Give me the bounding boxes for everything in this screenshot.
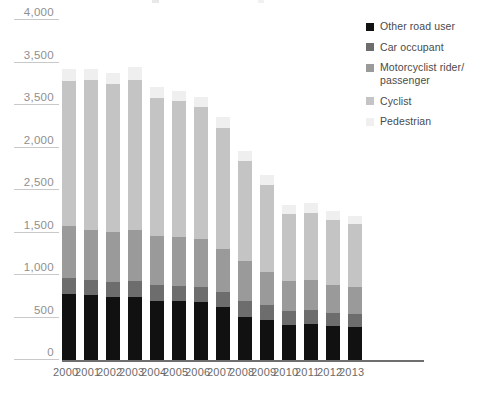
stacked-bar-chart: 4,0003,5003,5002,0002,5001,5001,0005000 …: [0, 0, 490, 402]
y-axis-tick-label: 3,500: [24, 91, 54, 103]
bar-segment: [172, 237, 186, 286]
legend-item[interactable]: Cyclist: [366, 95, 490, 108]
bar-segment: [216, 292, 230, 307]
bar-segment: [260, 305, 274, 320]
y-axis-tick-label: 4,000: [24, 6, 54, 18]
bar-segment: [128, 80, 142, 230]
bar-column[interactable]: [150, 87, 164, 360]
bar-segment: [326, 211, 340, 220]
bar-segment: [238, 161, 252, 261]
y-axis-gridline: [14, 189, 59, 190]
bar-column[interactable]: [172, 91, 186, 360]
legend-item[interactable]: Motorcyclist rider/ passenger: [366, 61, 490, 87]
y-axis-tick-label: 1,000: [24, 261, 54, 273]
bar-segment: [216, 117, 230, 128]
y-axis-gridline: [14, 359, 59, 360]
bar-segment: [326, 220, 340, 285]
bar-segment: [348, 216, 362, 225]
bar-segment: [84, 280, 98, 296]
bar-column[interactable]: [128, 67, 142, 360]
bar-column[interactable]: [326, 211, 340, 360]
bar-segment: [84, 230, 98, 280]
x-axis-tick-label: 2003: [119, 366, 133, 378]
bar-segment: [260, 175, 274, 185]
bar-segment: [326, 285, 340, 313]
bar-segment: [194, 97, 208, 107]
bar-segment: [282, 311, 296, 325]
y-axis-gridline: [14, 104, 59, 105]
bar-segment: [172, 91, 186, 102]
bar-column[interactable]: [106, 73, 120, 360]
y-axis-gridline: [14, 62, 59, 63]
legend-swatch-icon: [366, 43, 374, 51]
bar-column[interactable]: [194, 97, 208, 360]
x-axis-tick-label: 2000: [53, 366, 67, 378]
bar-column[interactable]: [84, 69, 98, 360]
legend-swatch-icon: [366, 97, 374, 105]
x-axis-labels: 2000200120022003200420052006200720082009…: [62, 366, 362, 378]
bar-segment: [260, 185, 274, 273]
bar-segment: [304, 310, 318, 324]
legend-item[interactable]: Pedestrian: [366, 115, 490, 128]
bar-segment: [260, 272, 274, 305]
bar-segment: [150, 301, 164, 361]
bar-segment: [194, 287, 208, 302]
bar-segment: [106, 84, 120, 232]
x-axis-tick-label: 2012: [317, 366, 331, 378]
bar-segment: [62, 226, 76, 279]
bar-segment: [150, 285, 164, 300]
bar-segment: [216, 249, 230, 292]
bar-segment: [194, 107, 208, 240]
legend-item-label: Cyclist: [380, 95, 412, 108]
bar-segment: [326, 326, 340, 360]
bar-segment: [172, 301, 186, 360]
bar-column[interactable]: [216, 117, 230, 360]
y-axis-tick-label: 1,500: [24, 219, 54, 231]
bar-segment: [106, 232, 120, 282]
y-axis-tick-label: 500: [34, 304, 54, 316]
bar-segment: [150, 87, 164, 98]
legend-item-label: Car occupant: [380, 41, 444, 54]
bar-segment: [106, 297, 120, 360]
bar-column[interactable]: [62, 69, 76, 360]
bar-segment: [282, 325, 296, 360]
bar-segment: [62, 81, 76, 226]
bar-segment: [62, 278, 76, 293]
x-axis-tick-label: 2002: [97, 366, 111, 378]
bar-segment: [348, 224, 362, 287]
bar-column[interactable]: [260, 175, 274, 360]
x-axis-tick-label: 2009: [251, 366, 265, 378]
legend-item[interactable]: Car occupant: [366, 41, 490, 54]
legend-item[interactable]: Other road user: [366, 20, 490, 33]
bar-segment: [172, 101, 186, 237]
bar-segment: [172, 286, 186, 301]
bar-segment: [304, 203, 318, 213]
bar-column[interactable]: [348, 216, 362, 360]
y-axis-gridline: [14, 147, 59, 148]
bar-segment: [194, 239, 208, 287]
bar-segment: [238, 301, 252, 317]
bar-segment: [304, 213, 318, 280]
bar-column[interactable]: [238, 151, 252, 360]
bar-column[interactable]: [304, 203, 318, 360]
bar-segment: [326, 313, 340, 326]
bar-segment: [106, 73, 120, 84]
bar-segment: [304, 280, 318, 310]
x-axis-tick-label: 2004: [141, 366, 155, 378]
bar-segment: [84, 80, 98, 230]
y-axis-tick-label: 0: [47, 346, 54, 358]
bar-segment: [282, 214, 296, 281]
bar-segment: [106, 282, 120, 297]
bar-column[interactable]: [282, 205, 296, 360]
bar-segment: [304, 324, 318, 360]
bar-segment: [260, 320, 274, 360]
bar-segment: [282, 281, 296, 311]
bar-segment: [238, 151, 252, 161]
y-axis-tick-label: 3,500: [24, 49, 54, 61]
legend-item-label: Motorcyclist rider/ passenger: [380, 61, 490, 87]
top-edge-artifact-right: [258, 0, 264, 3]
x-axis-tick-label: 2008: [229, 366, 243, 378]
legend-swatch-icon: [366, 118, 374, 126]
bar-segment: [282, 205, 296, 214]
legend-item-label: Other road user: [380, 20, 455, 33]
